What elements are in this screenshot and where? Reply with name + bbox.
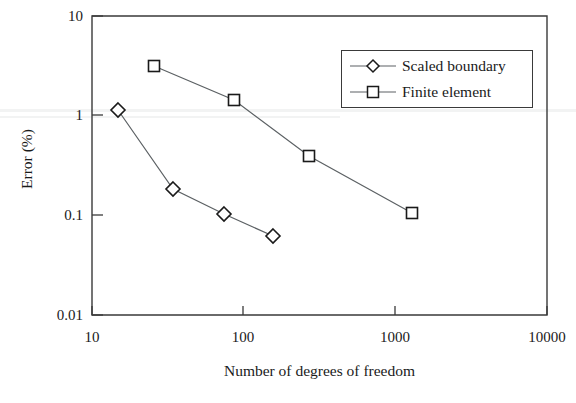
data-point-marker [111, 103, 125, 117]
legend-label: Scaled boundary [402, 57, 506, 75]
data-point-marker [166, 182, 180, 196]
x-tick-label-1000: 1000 [365, 330, 425, 345]
data-point-marker [149, 61, 160, 72]
legend-item-scaled-boundary: Scaled boundary [348, 54, 506, 78]
legend-item-finite-element: Finite element [348, 80, 491, 104]
x-tick-label-10000: 10000 [517, 330, 576, 345]
x-axis-ticks [92, 306, 547, 315]
data-point-marker [266, 229, 280, 243]
x-tick-label-100: 100 [213, 330, 273, 345]
y-tick-label-0.01: 0.01 [20, 308, 83, 323]
series-scaled-boundary [111, 103, 280, 243]
data-point-marker [217, 207, 231, 221]
chart-figure: 10 1 0.1 0.01 10 100 1000 10000 Error (%… [0, 0, 576, 403]
diamond-marker-icon [348, 56, 398, 76]
x-axis-title: Number of degrees of freedom [92, 362, 547, 380]
y-axis-title: Error (%) [18, 99, 36, 219]
legend-label: Finite element [402, 83, 491, 101]
x-tick-label-10: 10 [62, 330, 122, 345]
chart-legend: Scaled boundary Finite element [341, 50, 533, 108]
y-tick-label-10: 10 [20, 9, 83, 24]
square-marker-icon [348, 82, 398, 102]
data-point-marker [304, 151, 315, 162]
y-axis-ticks [92, 16, 103, 315]
data-point-marker [407, 208, 418, 219]
data-point-marker [229, 95, 240, 106]
